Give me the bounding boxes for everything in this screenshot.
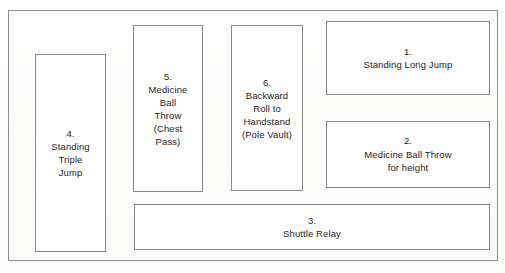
diagram-canvas: 4. Standing Triple Jump 5. Medicine Ball… <box>0 0 505 273</box>
station-1-label: 1. Standing Long Jump <box>361 45 456 72</box>
station-6-label: 6. Backward Roll to Handstand (Pole Vaul… <box>239 76 295 141</box>
station-box-4[interactable]: 4. Standing Triple Jump <box>35 54 106 252</box>
station-5-label: 5. Medicine Ball Throw (Chest Pass) <box>146 70 191 148</box>
station-box-6[interactable]: 6. Backward Roll to Handstand (Pole Vaul… <box>231 25 303 191</box>
station-3-label: 3. Shuttle Relay <box>280 214 344 241</box>
station-box-2[interactable]: 2. Medicine Ball Throw for height <box>326 121 490 188</box>
station-box-3[interactable]: 3. Shuttle Relay <box>134 204 490 250</box>
station-4-label: 4. Standing Triple Jump <box>48 127 92 179</box>
station-box-5[interactable]: 5. Medicine Ball Throw (Chest Pass) <box>133 25 203 192</box>
station-box-1[interactable]: 1. Standing Long Jump <box>326 21 490 95</box>
station-2-label: 2. Medicine Ball Throw for height <box>361 134 454 175</box>
